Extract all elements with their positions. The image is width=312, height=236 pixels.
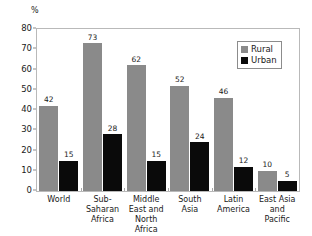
y-axis: 80706050403020100 [0, 28, 36, 192]
x-axis-tick-mark [124, 188, 125, 191]
x-axis-labels: WorldSub-Saharan AfricaMiddle East and N… [37, 195, 299, 235]
legend-swatch-rural-icon [241, 46, 248, 53]
legend-item-rural: Rural [241, 44, 277, 55]
bar-value-label: 62 [131, 56, 141, 64]
bar-rect-rural [39, 106, 58, 191]
bar-rural: 52 [170, 29, 189, 191]
x-axis-category-label: Middle East and North Africa [124, 195, 168, 235]
bar-chart: % 80706050403020100 42157328621552244612… [0, 0, 312, 236]
bar-value-label: 28 [108, 125, 118, 133]
y-axis-tick-label: 60 [21, 64, 32, 73]
x-axis-category-label: World [37, 195, 81, 235]
bar-rect-rural [258, 171, 277, 191]
y-axis-unit-label: % [31, 6, 39, 15]
x-axis-tick-mark [168, 188, 169, 191]
bar-value-label: 10 [262, 161, 272, 169]
x-axis-category-label: East Asia and Pacific [255, 195, 299, 235]
y-axis-tick-label: 30 [21, 125, 32, 134]
bar-rect-urban [278, 181, 297, 191]
bar-value-label: 15 [151, 151, 161, 159]
bar-group: 7328 [81, 29, 125, 191]
bar-rural: 42 [39, 29, 58, 191]
bar-rect-urban [190, 142, 209, 191]
y-axis-tick-label: 80 [21, 24, 32, 33]
y-axis-tick-mark [33, 109, 36, 110]
bar-rural: 62 [127, 29, 146, 191]
legend-label-rural: Rural [251, 45, 273, 54]
bar-rect-rural [83, 43, 102, 191]
y-axis-tick-label: 50 [21, 84, 32, 93]
y-axis-tick-mark [33, 28, 36, 29]
y-axis-tick-label: 70 [21, 44, 32, 53]
y-axis-tick-mark [33, 68, 36, 69]
bar-value-label: 73 [88, 34, 98, 42]
y-axis-tick-mark [33, 149, 36, 150]
bar-group: 5224 [168, 29, 212, 191]
bar-value-label: 52 [175, 76, 185, 84]
x-axis-tick-mark [255, 188, 256, 191]
x-axis-tick-mark [81, 188, 82, 191]
bar-value-label: 46 [219, 88, 229, 96]
y-axis-tick-mark [33, 129, 36, 130]
bar-rect-rural [170, 86, 189, 191]
bar-urban: 15 [147, 29, 166, 191]
bar-value-label: 24 [195, 133, 205, 141]
bar-value-label: 12 [239, 157, 249, 165]
x-axis-category-label: South Asia [168, 195, 212, 235]
bar-urban: 28 [103, 29, 122, 191]
bar-rect-urban [103, 134, 122, 191]
bar-group: 4215 [37, 29, 81, 191]
legend-swatch-urban-icon [241, 57, 248, 64]
chart-legend: Rural Urban [237, 41, 282, 69]
legend-item-urban: Urban [241, 55, 277, 66]
bar-rect-rural [127, 65, 146, 191]
bar-urban: 24 [190, 29, 209, 191]
bar-rect-urban [234, 167, 253, 191]
bar-value-label: 42 [44, 96, 54, 104]
y-axis-tick-mark [33, 190, 36, 191]
x-axis-tick-mark [212, 188, 213, 191]
legend-label-urban: Urban [251, 56, 277, 65]
bar-group: 6215 [124, 29, 168, 191]
bar-rural: 46 [214, 29, 233, 191]
bar-rect-urban [59, 161, 78, 191]
bar-value-label: 5 [285, 171, 290, 179]
bar-rect-rural [214, 98, 233, 191]
bar-rect-urban [147, 161, 166, 191]
bar-urban: 15 [59, 29, 78, 191]
bar-rural: 73 [83, 29, 102, 191]
bar-value-label: 15 [64, 151, 74, 159]
y-axis-tick-label: 0 [27, 186, 32, 195]
x-axis-category-label: Sub-Saharan Africa [81, 195, 125, 235]
y-axis-tick-label: 20 [21, 145, 32, 154]
x-axis-category-label: Latin America [212, 195, 256, 235]
y-axis-tick-label: 40 [21, 105, 32, 114]
y-axis-tick-mark [33, 48, 36, 49]
y-axis-tick-mark [33, 88, 36, 89]
y-axis-tick-label: 10 [21, 165, 32, 174]
y-axis-tick-mark [33, 169, 36, 170]
